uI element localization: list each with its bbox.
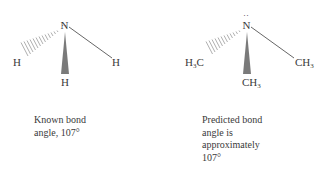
molecule-diagram: ·· N H H H ·· N: [0, 0, 320, 173]
caption-line: Predicted bond: [202, 114, 262, 127]
caption-line: approximately: [202, 139, 262, 152]
wedge-bond: [243, 32, 251, 74]
left-hydrogen: H: [13, 56, 21, 68]
hashed-bond: [21, 31, 58, 57]
left-methyl-group: H3C: [185, 56, 204, 70]
caption-line: 107°: [202, 152, 262, 165]
bottom-hydrogen: H: [61, 76, 69, 88]
ammonia-caption: Known bond angle, 107°: [34, 114, 86, 139]
plain-bond: [69, 27, 112, 58]
plain-bond: [251, 27, 294, 58]
caption-line: angle is: [202, 127, 262, 140]
right-hydrogen: H: [112, 56, 120, 68]
nitrogen-atom: N: [61, 19, 69, 31]
ammonia-structure: ·· N H H H: [13, 19, 120, 88]
wedge-bond: [61, 32, 69, 74]
trimethylamine-structure: ·· N H3C CH3 CH3: [185, 10, 314, 90]
bottom-methyl-group: CH3: [242, 76, 261, 90]
caption-line: Known bond: [34, 114, 86, 127]
caption-line: angle, 107°: [34, 127, 86, 140]
trimethylamine-caption: Predicted bond angle is approximately 10…: [202, 114, 262, 164]
right-methyl-group: CH3: [295, 56, 314, 70]
nitrogen-atom: N: [243, 19, 251, 31]
hashed-bond: [206, 31, 240, 55]
